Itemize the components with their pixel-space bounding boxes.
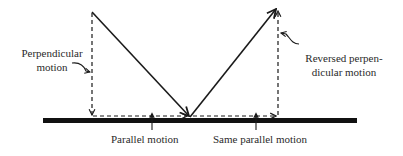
same-parallel-motion-label: Same parallel motion — [213, 132, 307, 146]
reversed-perpendicular-motion-label-line1: Reversed perpen- — [296, 51, 392, 65]
surface-bar — [43, 118, 357, 123]
parallel-motion-label: Parallel motion — [111, 132, 179, 146]
reversed-pointer-icon — [281, 33, 299, 44]
outgoing-vector-arrow — [190, 9, 276, 117]
perpendicular-motion-label-line1: Perpendicular — [14, 46, 90, 60]
perpendicular-motion-label: Perpendicular motion — [14, 46, 90, 74]
reversed-perpendicular-motion-label: Reversed perpen- dicular motion — [296, 51, 392, 79]
reversed-perpendicular-motion-label-line2: dicular motion — [296, 65, 392, 79]
perpendicular-motion-label-line2: motion — [14, 60, 90, 74]
incoming-vector-arrow — [92, 12, 189, 116]
